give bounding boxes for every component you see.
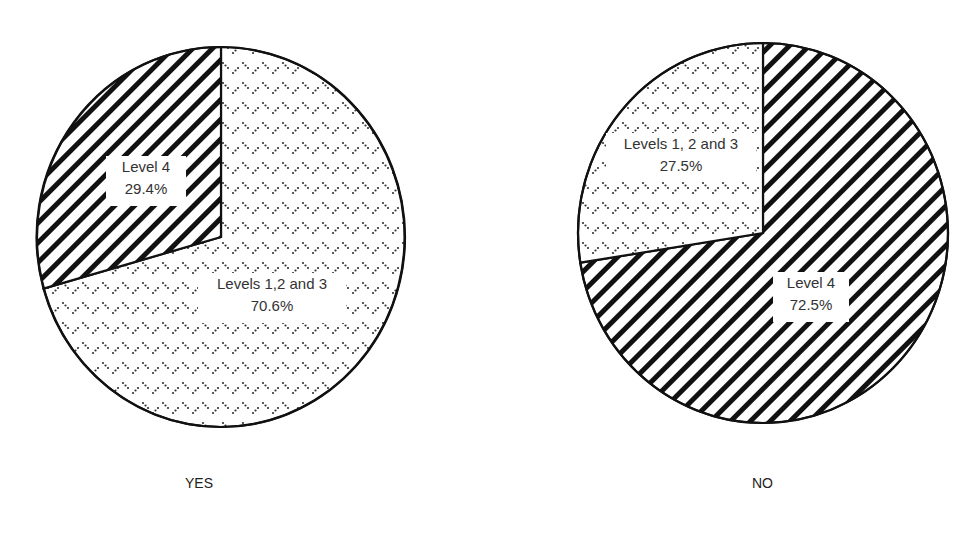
label-no-level4: Level 4 72.5% — [773, 272, 849, 322]
label-no-level4-name: Level 4 — [773, 272, 849, 294]
pie-no — [578, 43, 948, 423]
pie-charts — [0, 0, 963, 535]
label-yes-level4-name: Level 4 — [106, 156, 186, 178]
label-no-level4-pct: 72.5% — [773, 294, 849, 316]
label-no-levels123-name: Levels 1, 2 and 3 — [606, 133, 756, 155]
label-no-levels123-pct: 27.5% — [606, 155, 756, 177]
label-yes-level4: Level 4 29.4% — [106, 156, 186, 206]
pie-yes — [37, 47, 405, 427]
label-yes-level4-pct: 29.4% — [106, 178, 186, 200]
label-no-levels123: Levels 1, 2 and 3 27.5% — [606, 133, 756, 181]
label-yes-levels123-name: Levels 1,2 and 3 — [198, 273, 346, 295]
caption-yes: YES — [185, 475, 213, 491]
caption-no: NO — [752, 475, 773, 491]
label-yes-levels123: Levels 1,2 and 3 70.6% — [198, 273, 346, 323]
label-yes-levels123-pct: 70.6% — [198, 295, 346, 317]
